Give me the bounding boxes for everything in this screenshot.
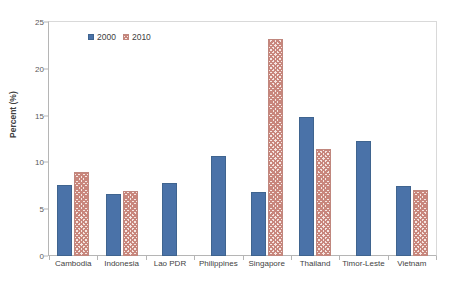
bars-container	[49, 22, 436, 256]
bar-vietnam-2000[interactable]	[396, 186, 411, 256]
bar-chart: 0510152025 Percent (%) CambodiaIndonesia…	[0, 0, 452, 285]
x-tick-label: Thailand	[300, 259, 331, 268]
chart-legend: 20002010	[88, 33, 151, 42]
series-2010-swatch	[123, 34, 129, 40]
legend-item-label: 2000	[97, 33, 116, 42]
bar-group	[243, 22, 291, 256]
x-tick-mark	[194, 256, 195, 260]
legend-item-2000[interactable]: 2000	[88, 33, 116, 42]
y-axis: 0510152025	[0, 21, 44, 256]
y-tick-label: 25	[4, 18, 44, 27]
x-axis: CambodiaIndonesiaLao PDRPhilippinesSinga…	[49, 259, 436, 281]
series-2000-swatch	[88, 34, 94, 40]
x-tick-mark	[49, 256, 50, 260]
bar-group	[339, 22, 387, 256]
bar-vietnam-2010[interactable]	[413, 190, 428, 256]
x-tick-mark	[339, 256, 340, 260]
bar-group	[388, 22, 436, 256]
bar-group	[194, 22, 242, 256]
bar-thailand-2010[interactable]	[316, 149, 331, 256]
bar-thailand-2000[interactable]	[299, 117, 314, 256]
x-tick-label: Philippines	[199, 259, 238, 268]
bar-singapore-2000[interactable]	[251, 192, 266, 256]
x-tick-label: Indonesia	[104, 259, 139, 268]
bar-group	[146, 22, 194, 256]
bar-lao-pdr-2000[interactable]	[162, 183, 177, 256]
y-tick-label: 20	[4, 64, 44, 73]
bar-singapore-2010[interactable]	[268, 39, 283, 256]
bar-indonesia-2010[interactable]	[123, 191, 138, 256]
bar-philippines-2000[interactable]	[211, 156, 226, 256]
legend-item-2010[interactable]: 2010	[123, 33, 151, 42]
y-tick-label: 5	[4, 205, 44, 214]
legend-item-label: 2010	[132, 33, 151, 42]
x-tick-label: Lao PDR	[154, 259, 186, 268]
x-tick-mark	[291, 256, 292, 260]
bar-timor-leste-2000[interactable]	[356, 141, 371, 256]
x-tick-mark	[436, 256, 437, 260]
x-tick-label: Singapore	[248, 259, 284, 268]
x-tick-label: Cambodia	[55, 259, 91, 268]
x-tick-label: Timor-Leste	[342, 259, 384, 268]
bar-group	[49, 22, 97, 256]
y-tick-label: 0	[4, 252, 44, 261]
bar-group	[97, 22, 145, 256]
bar-cambodia-2000[interactable]	[57, 185, 72, 256]
x-tick-mark	[97, 256, 98, 260]
x-tick-mark	[388, 256, 389, 260]
bar-cambodia-2010[interactable]	[74, 172, 89, 256]
x-tick-mark	[243, 256, 244, 260]
y-axis-title: Percent (%)	[8, 91, 18, 138]
x-tick-mark	[146, 256, 147, 260]
x-tick-label: Vietnam	[397, 259, 426, 268]
y-tick-label: 10	[4, 158, 44, 167]
bar-indonesia-2000[interactable]	[106, 194, 121, 256]
bar-group	[291, 22, 339, 256]
